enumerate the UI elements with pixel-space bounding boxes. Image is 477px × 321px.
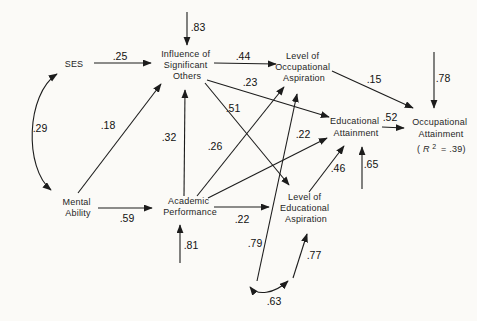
coef-disturbance-loa: .79 — [248, 237, 263, 249]
path-academic-performance-to-iso — [184, 90, 185, 196]
path-educational-attainment-to-occupational-attainment — [382, 127, 404, 128]
path-mental-ability-to-iso — [78, 84, 161, 193]
coef-disturbance-iso: .83 — [191, 21, 206, 33]
coef-ap-to-iso: .32 — [162, 131, 177, 143]
node-occupational-attainment-r2: ( R 2 = .39) — [417, 141, 466, 155]
coef-lea-to-edatt: .46 — [331, 162, 346, 174]
coef-iso-to-edatt: .23 — [243, 76, 258, 88]
path-diagram: .25 .83 .18 .32 .59 .81 .44 .23 .51 .26 … — [0, 0, 477, 321]
path-disturbance-to-lea — [293, 234, 307, 278]
node-mental-ability: Mental Ability — [63, 197, 94, 218]
coef-iso-to-loa: .44 — [236, 50, 251, 62]
path-disturbance-to-loa — [257, 94, 297, 281]
node-labels: SES Mental Ability Influence of Signific… — [63, 49, 470, 224]
node-level-of-occupational-aspiration: Level of Occupational Aspiration — [275, 51, 333, 83]
node-occupational-attainment: Occupational Attainment — [412, 117, 470, 139]
node-ses: SES — [65, 59, 84, 69]
coef-disturbance-lea: .77 — [307, 249, 322, 261]
coef-ma-to-ap: .59 — [120, 212, 135, 224]
coef-ap-to-edatt: .22 — [296, 128, 311, 140]
coef-ses-ma-correlation: .29 — [33, 122, 48, 134]
path-iso-to-loa — [214, 63, 276, 64]
correlation-loa-lea-disturbances — [250, 281, 288, 293]
node-academic-performance: Academic Performance — [163, 196, 217, 217]
node-level-of-educational-aspiration: Level of Educational Aspiration — [280, 192, 332, 224]
path-academic-performance-to-educational-attainment — [208, 138, 327, 198]
figure-page: .25 .83 .18 .32 .59 .81 .44 .23 .51 .26 … — [0, 0, 477, 321]
coef-ses-to-iso: .25 — [113, 50, 128, 62]
coef-disturbance-occatt: .78 — [436, 72, 451, 84]
coef-ap-to-lea: .22 — [235, 213, 250, 225]
coef-edatt-to-occatt: .52 — [383, 111, 398, 123]
coef-ma-to-iso: .18 — [101, 119, 116, 131]
coef-loa-lea-correlation: .63 — [267, 295, 282, 307]
coef-ap-to-loa: .26 — [208, 140, 223, 152]
coef-iso-to-lea: .51 — [226, 102, 241, 114]
coef-disturbance-edatt: .65 — [364, 158, 379, 170]
node-influence-of-significant-others: Influence of Significant Others — [161, 49, 213, 81]
coef-disturbance-ap: .81 — [184, 239, 199, 251]
node-educational-attainment: Educational Attainment — [330, 116, 382, 138]
coef-loa-to-occatt: .15 — [367, 73, 382, 85]
edges — [32, 12, 434, 293]
